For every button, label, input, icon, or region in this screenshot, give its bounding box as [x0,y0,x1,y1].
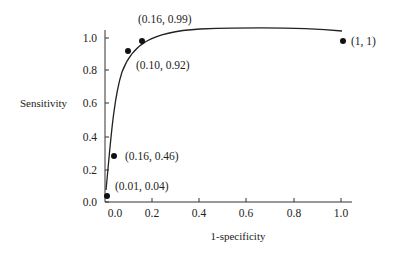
y-tick-label: 0.0 [83,196,98,208]
point-annotation: (0.01, 0.04) [115,180,169,193]
x-tick-label: 1.0 [334,207,349,219]
data-point [340,38,346,44]
x-ticks: 0.0 0.2 0.4 0.6 0.8 1.0 [108,198,349,219]
data-point [111,153,117,159]
x-tick-label: 0.4 [192,207,207,219]
y-tick-label: 0.4 [83,131,98,143]
x-axis-label: 1-specificity [211,230,266,242]
data-point [104,193,110,199]
data-point [125,48,131,54]
point-annotation: (0.16, 0.46) [125,150,179,163]
data-point [139,38,145,44]
y-tick-label: 0.8 [83,64,98,76]
y-tick-label: 0.2 [83,164,98,176]
x-tick-label: 0.8 [287,207,302,219]
x-tick-label: 0.0 [108,207,123,219]
roc-chart: 0.0 0.2 0.4 0.6 0.8 1.0 0.0 0.2 0.4 0.6 … [0,0,395,255]
roc-curve [106,28,342,190]
point-annotation: (0.16, 0.99) [138,13,192,26]
y-axis-label: Sensitivity [20,97,68,109]
x-tick-label: 0.6 [239,207,254,219]
point-annotation: (0.10, 0.92) [136,59,190,72]
x-tick-label: 0.2 [145,207,160,219]
point-annotation: (1, 1) [351,35,376,48]
y-tick-label: 1.0 [83,32,98,44]
y-tick-label: 0.6 [83,97,98,109]
